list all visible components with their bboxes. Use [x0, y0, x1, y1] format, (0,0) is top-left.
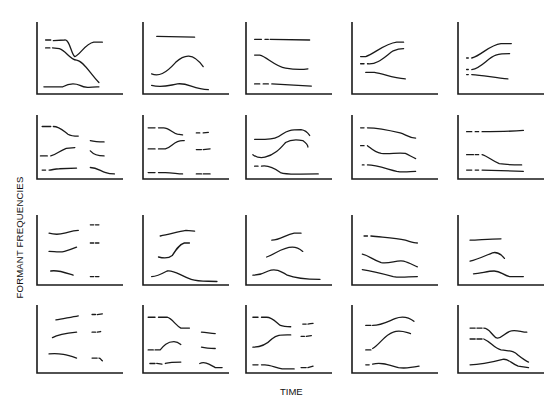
formant-curve	[148, 342, 181, 350]
formant-curve	[201, 347, 215, 348]
formant-curve	[467, 44, 512, 58]
panel-axes	[143, 305, 229, 373]
formant-curve	[152, 84, 209, 90]
panel-axes	[458, 22, 544, 94]
formant-curve	[52, 332, 76, 337]
panel-axes	[37, 305, 123, 373]
formant-curve	[255, 39, 310, 40]
formant-curve	[152, 271, 217, 282]
panel-axes	[246, 22, 332, 94]
formant-curve	[196, 132, 208, 133]
formant-curve	[253, 140, 308, 158]
formant-panel	[352, 22, 438, 94]
formant-curve	[51, 271, 73, 276]
formant-curve	[255, 130, 310, 140]
y-axis-label: FORMANT FREQUENCIES	[14, 173, 25, 303]
formant-curve	[90, 141, 104, 142]
formant-curve	[90, 151, 104, 156]
formant-curve	[49, 230, 78, 234]
formant-curve	[467, 130, 524, 131]
formant-curve	[467, 54, 510, 70]
formant-panel	[246, 215, 332, 285]
panel-axes	[37, 215, 123, 285]
formant-curve	[366, 363, 419, 368]
panel-axes	[246, 305, 332, 373]
formant-curve	[92, 358, 102, 361]
formant-curve	[148, 141, 184, 149]
formant-panel	[246, 305, 332, 373]
panel-axes	[352, 115, 438, 179]
formant-panel	[37, 115, 123, 179]
formant-curve	[255, 55, 308, 69]
formant-curve	[152, 56, 204, 75]
panel-axes	[458, 215, 544, 285]
formant-curve	[362, 254, 417, 267]
formant-curve	[301, 336, 311, 337]
formant-curve	[148, 317, 189, 328]
formant-curve	[470, 359, 528, 367]
formant-panel	[143, 215, 229, 285]
formant-curve	[56, 316, 78, 320]
formant-panel	[246, 22, 332, 94]
formant-curve	[253, 270, 320, 280]
formant-curve	[366, 331, 411, 350]
formant-panel	[37, 22, 123, 94]
formant-panel	[458, 305, 544, 373]
x-axis-label: TIME	[280, 386, 303, 397]
formant-curve	[44, 84, 99, 88]
panel-axes	[352, 22, 438, 94]
formant-curve	[361, 146, 416, 159]
formant-curve	[42, 127, 78, 137]
formant-panel	[458, 215, 544, 285]
formant-curve	[157, 36, 195, 37]
formant-curve	[42, 168, 76, 170]
formant-curve	[200, 363, 222, 368]
formant-curve	[201, 332, 215, 333]
formant-curve	[255, 166, 319, 174]
formant-curve	[253, 365, 294, 369]
formant-curve	[301, 366, 313, 367]
formant-panel	[352, 115, 438, 179]
formant-curve	[470, 328, 527, 338]
formant-panel	[37, 215, 123, 285]
formant-panel	[246, 115, 332, 179]
formant-curve	[158, 243, 189, 258]
formant-curve	[303, 323, 313, 324]
formant-curve	[160, 230, 194, 236]
formant-curve	[148, 128, 182, 135]
formant-curve	[40, 148, 74, 156]
formant-panel	[458, 22, 544, 94]
formant-curve	[90, 167, 114, 173]
panel-axes	[143, 115, 229, 179]
formant-curve	[470, 239, 501, 240]
formant-curve	[366, 317, 414, 325]
formant-curve	[470, 339, 528, 362]
formant-panel	[143, 115, 229, 179]
formant-curve	[49, 247, 77, 252]
formant-curve	[92, 332, 101, 333]
formant-curve	[253, 317, 291, 327]
formant-curve	[366, 72, 406, 78]
formant-curve	[467, 170, 524, 171]
formant-curve	[364, 236, 417, 243]
panel-axes	[143, 22, 229, 94]
panel-axes	[352, 305, 438, 373]
formant-curve	[148, 173, 182, 174]
formant-panel	[352, 215, 438, 285]
panel-axes	[37, 22, 123, 94]
formant-curve	[267, 247, 303, 257]
formant-curve	[361, 128, 416, 138]
formant-curve	[467, 75, 508, 79]
formant-panel	[458, 115, 544, 179]
formant-curve	[196, 149, 210, 150]
formant-panel	[37, 305, 123, 373]
formant-curve	[362, 270, 417, 278]
formant-curve	[92, 314, 102, 315]
formant-curve	[473, 271, 523, 277]
panel-axes	[352, 215, 438, 285]
formant-curve	[255, 84, 312, 86]
formant-curve	[362, 165, 415, 172]
panel-axes	[143, 215, 229, 285]
formant-curve	[49, 354, 77, 358]
formant-curve	[272, 233, 301, 240]
